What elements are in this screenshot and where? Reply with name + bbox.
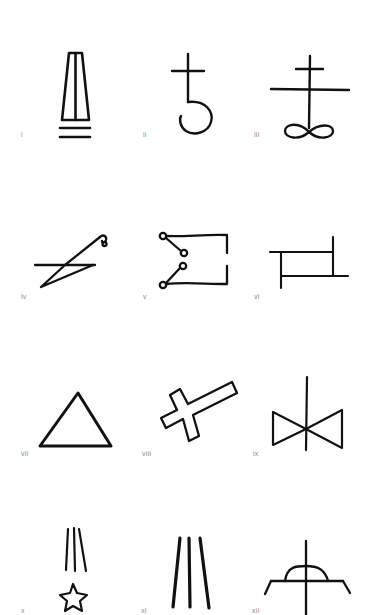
symbols-canvas: [0, 0, 366, 615]
bowtie-with-vertical-line-icon: [273, 377, 342, 450]
symbol-label-ii: ii: [143, 131, 147, 138]
symbol-label-v: v: [143, 293, 147, 300]
zigzag-with-curl-icon: [35, 236, 107, 287]
symbol-label-viii: viii: [142, 450, 151, 457]
bracket-with-circled-nodes-icon: [160, 233, 227, 288]
cross-with-hook-icon: [172, 54, 212, 133]
symbol-label-xii: xii: [252, 607, 260, 614]
tapered-pillar-over-double-bar-icon: [60, 53, 90, 137]
tilted-outline-cross-icon: [161, 382, 237, 441]
symbol-label-xi: xi: [141, 607, 147, 614]
offset-rectangle-icon: [270, 237, 348, 288]
semicircle-on-cross-icon: [265, 541, 350, 615]
triangle-icon: [40, 393, 111, 446]
symbol-label-i: i: [21, 131, 23, 138]
symbol-label-x: x: [21, 607, 25, 614]
falling-star-icon: [60, 528, 87, 611]
symbol-label-iv: iv: [21, 293, 27, 300]
symbol-label-ix: ix: [253, 450, 259, 457]
symbol-label-vi: vi: [254, 293, 260, 300]
double-cross-over-infinity-icon: [271, 56, 349, 138]
symbol-label-vii: vii: [21, 450, 29, 457]
three-lines-icon: [173, 538, 209, 608]
symbol-label-iii: iii: [254, 131, 260, 138]
